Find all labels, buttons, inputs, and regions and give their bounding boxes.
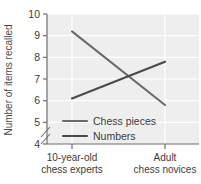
y-tick-label-8: 8 bbox=[34, 51, 40, 63]
y-tick-label-7: 7 bbox=[34, 73, 40, 85]
chart-figure: 45678910 Chess piecesNumbers Number of i… bbox=[0, 0, 201, 184]
category-label-1-line-1: chess novices bbox=[134, 164, 197, 175]
y-tick-label-9: 9 bbox=[34, 29, 40, 41]
y-tick-label-6: 6 bbox=[34, 94, 40, 106]
y-axis-tick-labels: 45678910 bbox=[28, 8, 40, 150]
category-label-0-line-0: 10-year-old bbox=[47, 152, 98, 163]
category-label-0-line-1: chess experts bbox=[41, 164, 103, 175]
legend-label-chess-pieces: Chess pieces bbox=[93, 115, 156, 127]
y-tick-label-4: 4 bbox=[34, 138, 40, 150]
line-chart: 45678910 Chess piecesNumbers Number of i… bbox=[0, 0, 201, 184]
y-axis-title: Number of items recalled bbox=[3, 24, 14, 135]
x-axis-ticks bbox=[72, 144, 165, 149]
legend-label-numbers: Numbers bbox=[93, 130, 136, 142]
y-tick-label-5: 5 bbox=[34, 116, 40, 128]
y-tick-label-10: 10 bbox=[28, 8, 40, 20]
category-label-1-line-0: Adult bbox=[154, 152, 177, 163]
x-axis-category-labels: 10-year-oldchess expertsAdultchess novic… bbox=[41, 152, 196, 175]
